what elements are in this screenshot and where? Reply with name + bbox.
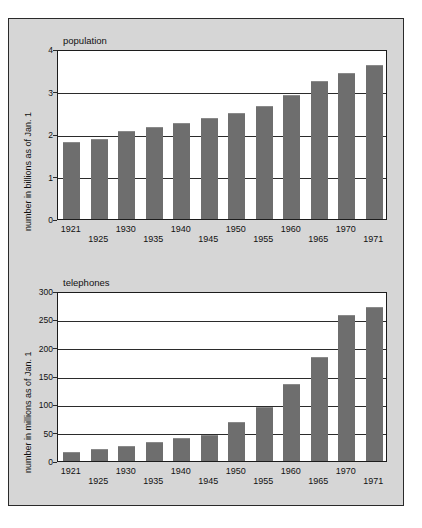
- y-tick-label: 200: [39, 344, 53, 354]
- figure-panel: 0123419211925193019351940194519501955196…: [8, 18, 404, 506]
- x-tick-label: 1945: [198, 234, 218, 244]
- bar: [201, 118, 218, 219]
- y-tick-label: 4: [48, 45, 53, 55]
- x-tick-label: 1971: [363, 234, 383, 244]
- x-tick-label: 1960: [281, 466, 301, 476]
- x-tick-label: 1935: [143, 476, 163, 486]
- y-tick-mark: [53, 292, 57, 293]
- x-tick-label: 1950: [226, 224, 246, 234]
- bar: [173, 438, 190, 461]
- gridline: [58, 93, 386, 94]
- bar: [283, 384, 300, 461]
- plot-area: [57, 50, 387, 220]
- gridline: [58, 434, 386, 435]
- plot-area: [57, 292, 387, 462]
- x-tick-label: 1955: [253, 234, 273, 244]
- y-tick-mark: [53, 220, 57, 221]
- bar: [366, 307, 383, 461]
- x-tick-label: 1930: [116, 466, 136, 476]
- x-tick-label: 1921: [61, 224, 81, 234]
- y-tick-label: 300: [39, 287, 53, 297]
- bar: [311, 357, 328, 461]
- y-tick-mark: [53, 320, 57, 321]
- bar: [311, 81, 328, 219]
- y-tick-label: 0: [48, 215, 53, 225]
- x-tick-label: 1940: [171, 466, 191, 476]
- chart-title: telephones: [63, 277, 109, 288]
- x-tick-label: 1960: [281, 224, 301, 234]
- bar: [338, 315, 355, 461]
- x-tick-label: 1971: [363, 476, 383, 486]
- bar: [63, 142, 80, 219]
- bar: [146, 442, 163, 461]
- bar: [118, 131, 135, 219]
- x-tick-label: 1940: [171, 224, 191, 234]
- bar: [173, 123, 190, 219]
- bar: [256, 407, 273, 461]
- gridline: [58, 136, 386, 137]
- y-tick-mark: [53, 405, 57, 406]
- gridline: [58, 321, 386, 322]
- gridline: [58, 378, 386, 379]
- y-tick-label: 250: [39, 315, 53, 325]
- cropped-caption-strip: [0, 0, 422, 9]
- figure-canvas: 0123419211925193019351940194519501955196…: [9, 19, 403, 505]
- x-tick-label: 1965: [308, 234, 328, 244]
- x-tick-label: 1925: [88, 234, 108, 244]
- y-tick-label: 50: [44, 429, 53, 439]
- x-tick-label: 1921: [61, 466, 81, 476]
- y-tick-label: 2: [48, 130, 53, 140]
- y-tick-mark: [53, 377, 57, 378]
- y-tick-label: 150: [39, 372, 53, 382]
- gridline: [58, 406, 386, 407]
- y-tick-mark: [53, 135, 57, 136]
- x-tick-label: 1955: [253, 476, 273, 486]
- x-tick-label: 1935: [143, 234, 163, 244]
- x-tick-label: 1950: [226, 466, 246, 476]
- x-tick-label: 1970: [336, 466, 356, 476]
- chart-telephones: 0501001502002503001921192519301935194019…: [57, 292, 387, 462]
- bar: [63, 452, 80, 461]
- bar: [118, 446, 135, 461]
- x-tick-label: 1945: [198, 476, 218, 486]
- y-tick-mark: [53, 177, 57, 178]
- bar: [91, 449, 108, 461]
- bar: [338, 73, 355, 219]
- x-tick-label: 1930: [116, 224, 136, 234]
- bar: [228, 422, 245, 461]
- y-tick-mark: [53, 92, 57, 93]
- chart-title: population: [63, 35, 107, 46]
- y-axis-label: number in billions as of Jan. 1: [23, 112, 33, 231]
- bar: [228, 113, 245, 219]
- y-tick-label: 1: [48, 173, 53, 183]
- x-tick-label: 1925: [88, 476, 108, 486]
- bar: [256, 106, 273, 219]
- y-axis-label: number in millions as of Jan. 1: [23, 351, 33, 473]
- bar: [366, 65, 383, 219]
- x-tick-label: 1965: [308, 476, 328, 486]
- bar: [283, 95, 300, 219]
- y-tick-label: 0: [48, 457, 53, 467]
- y-tick-mark: [53, 462, 57, 463]
- bar: [201, 435, 218, 461]
- y-tick-label: 100: [39, 400, 53, 410]
- chart-population: 0123419211925193019351940194519501955196…: [57, 50, 387, 220]
- y-tick-mark: [53, 433, 57, 434]
- x-tick-label: 1970: [336, 224, 356, 234]
- y-tick-label: 3: [48, 88, 53, 98]
- y-tick-mark: [53, 50, 57, 51]
- y-tick-mark: [53, 348, 57, 349]
- bar: [146, 127, 163, 219]
- bar: [91, 139, 108, 219]
- gridline: [58, 349, 386, 350]
